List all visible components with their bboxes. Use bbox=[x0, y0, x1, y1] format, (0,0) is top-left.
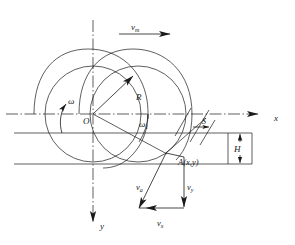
origin-label: O bbox=[83, 116, 90, 126]
feed-velocity-label: vm bbox=[131, 22, 140, 33]
axis-group bbox=[6, 20, 258, 222]
point-A-leader bbox=[166, 118, 206, 153]
v-a-label: va bbox=[136, 182, 143, 193]
radius-label: R bbox=[135, 92, 142, 102]
step-over-label: S bbox=[202, 117, 206, 126]
v-a-vector bbox=[139, 153, 166, 208]
omega-label: ω bbox=[68, 96, 74, 106]
diagram-canvas: vm ω R O ω1 S H A(x,y) x y va vy bbox=[0, 0, 295, 245]
trochoid-curves bbox=[34, 49, 192, 168]
x-axis-label: x bbox=[273, 113, 278, 123]
v-x-label: vx bbox=[157, 218, 164, 229]
omega-rotation-arrow bbox=[60, 104, 66, 133]
radius-arrow bbox=[93, 76, 133, 114]
trochoid-curve-right bbox=[79, 49, 192, 160]
step-over-guide-1 bbox=[175, 108, 191, 136]
y-axis-label: y bbox=[99, 221, 104, 231]
omega1-label: ω1 bbox=[139, 119, 148, 130]
depth-label: H bbox=[233, 144, 241, 154]
radius-arrow-line bbox=[93, 76, 133, 114]
omega-arc bbox=[60, 104, 66, 133]
figure-container: vm ω R O ω1 S H A(x,y) x y va vy bbox=[0, 0, 295, 245]
step-over-guide-2 bbox=[190, 110, 209, 142]
point-A-label: A(x,y) bbox=[177, 157, 199, 167]
engagement-band bbox=[14, 133, 252, 164]
v-y-label: vy bbox=[187, 182, 194, 193]
